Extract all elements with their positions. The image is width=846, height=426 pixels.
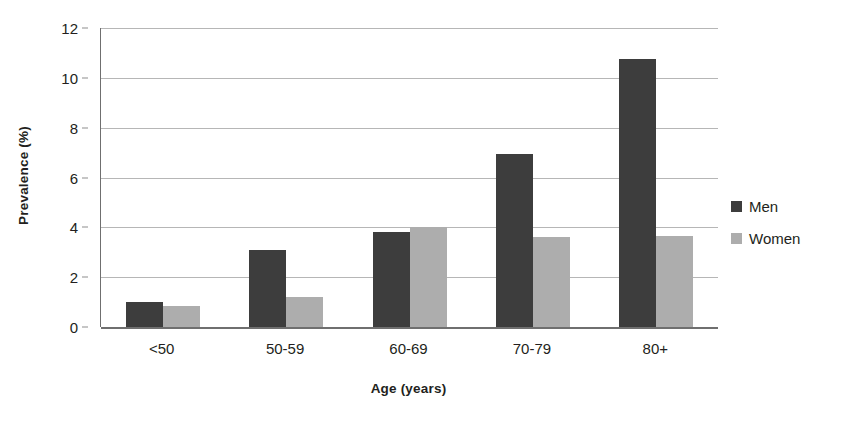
y-tick-mark (82, 227, 88, 228)
legend-item-men: Men (731, 190, 841, 222)
y-tick-label: 10 (26, 70, 78, 85)
x-tick-label: 60-69 (389, 340, 427, 357)
x-axis-title: Age (years) (100, 381, 717, 396)
y-tick-mark (82, 77, 88, 78)
legend-swatch-icon (731, 233, 742, 244)
legend-swatch-icon (731, 201, 742, 212)
legend-label: Men (749, 198, 778, 215)
y-tick-label: 12 (26, 21, 78, 36)
bar-men-4 (619, 59, 656, 327)
chart-legend: MenWomen (731, 190, 841, 254)
bar-men-3 (496, 154, 533, 327)
legend-item-women: Women (731, 222, 841, 254)
y-tick-mark (82, 28, 88, 29)
x-tick-label: 80+ (643, 340, 668, 357)
bar-women-2 (410, 227, 447, 327)
legend-label: Women (749, 230, 800, 247)
y-tick-label: 4 (26, 220, 78, 235)
bars-layer (101, 28, 718, 327)
bar-women-4 (656, 236, 693, 327)
bar-men-0 (126, 302, 163, 327)
y-tick-mark (82, 127, 88, 128)
bar-women-0 (163, 306, 200, 327)
y-tick-label: 0 (26, 320, 78, 335)
y-tick-mark (82, 277, 88, 278)
x-tick-label: 70-79 (513, 340, 551, 357)
y-tick-label: 6 (26, 170, 78, 185)
bar-chart: Prevalence (%) 024681012 <5050-5960-6970… (0, 0, 846, 426)
bar-women-1 (286, 297, 323, 327)
bar-men-2 (373, 232, 410, 327)
x-tick-label: 50-59 (266, 340, 304, 357)
bar-men-1 (249, 250, 286, 327)
y-tick-mark (82, 327, 88, 328)
y-tick-label: 2 (26, 270, 78, 285)
y-tick-label: 8 (26, 120, 78, 135)
y-axis-tick-labels: 024681012 (26, 20, 88, 335)
y-tick-mark (82, 177, 88, 178)
plot-area (100, 28, 718, 327)
x-axis-tick-labels: <5050-5960-6970-7980+ (100, 340, 717, 368)
bar-women-3 (533, 237, 570, 327)
x-axis-line (101, 327, 718, 329)
x-tick-label: <50 (149, 340, 174, 357)
